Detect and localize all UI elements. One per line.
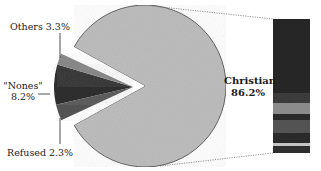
label-nones-name: "Nones": [0, 80, 46, 91]
bar-segment: [273, 120, 310, 133]
christian-breakdown-bar: [273, 19, 310, 153]
bar-segment: [273, 19, 310, 93]
label-christian-value: 86.2%: [224, 87, 272, 98]
bar-segment: [273, 146, 310, 153]
bar-segment: [273, 114, 310, 120]
bar-segment: [273, 133, 310, 143]
label-refused: Refused 2.3%: [7, 147, 73, 158]
label-nones-value: 8.2%: [0, 91, 46, 102]
bar-segment: [273, 103, 310, 114]
bar-segment: [273, 143, 310, 146]
label-others: Others 3.3%: [10, 21, 70, 32]
label-christian-name: Christian: [224, 75, 272, 86]
bar-segment: [273, 93, 310, 103]
